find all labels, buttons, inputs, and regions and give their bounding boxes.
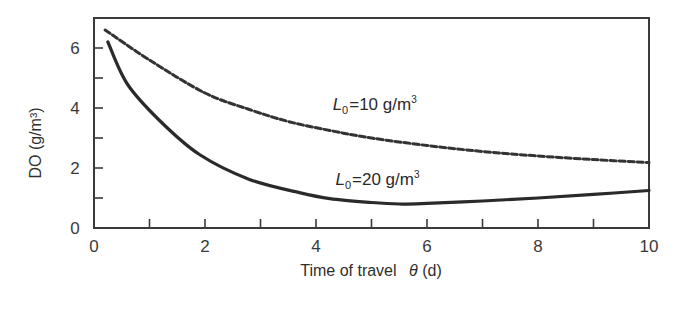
- x-axis-title: Time of travel θ (d): [300, 262, 441, 279]
- y-axis-ticks: 0246: [70, 39, 103, 238]
- x-tick-label: 4: [311, 237, 320, 256]
- y-tick-label: 0: [70, 219, 79, 238]
- x-axis-ticks: 0246810: [89, 219, 658, 256]
- y-tick-label: 6: [70, 39, 79, 58]
- annotation-l0-20: L0=20 g/m3: [335, 169, 420, 191]
- x-tick-label: 0: [89, 237, 98, 256]
- x-tick-label: 2: [200, 237, 209, 256]
- annotation-l0-10: L0=10 g/m3: [333, 94, 418, 116]
- x-tick-label: 10: [640, 237, 659, 256]
- x-tick-label: 8: [533, 237, 542, 256]
- x-tick-label: 6: [422, 237, 431, 256]
- y-tick-label: 4: [70, 99, 79, 118]
- x-axis-title-unit: (d): [422, 262, 442, 279]
- y-axis-title: DO (g/m³): [27, 107, 44, 178]
- y-tick-label: 2: [70, 159, 79, 178]
- x-axis-title-text: Time of travel: [300, 262, 396, 279]
- do-sag-chart: 0246810 0246 L0=10 g/m3L0=20 g/m3 DO (g/…: [0, 0, 687, 313]
- x-axis-title-symbol: θ: [409, 262, 418, 279]
